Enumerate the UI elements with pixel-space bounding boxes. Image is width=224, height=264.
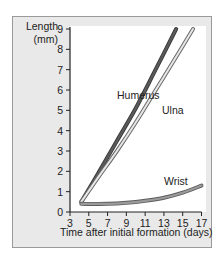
y-tick-label: 1 bbox=[57, 186, 63, 198]
x-tick-label: 7 bbox=[105, 217, 111, 229]
y-tick-label: 4 bbox=[57, 125, 63, 137]
wrist-label: Wrist bbox=[164, 175, 188, 187]
x-tick-label: 17 bbox=[196, 217, 208, 229]
y-tick-label: 7 bbox=[57, 64, 63, 76]
y-tick-label: 6 bbox=[57, 84, 63, 96]
y-tick-label: 9 bbox=[57, 23, 63, 35]
y-tick-label: 3 bbox=[57, 145, 63, 157]
humerus-label: Humerus bbox=[117, 89, 160, 101]
x-tick-label: 5 bbox=[86, 217, 92, 229]
y-tick-label: 8 bbox=[57, 43, 63, 55]
y-tick-label: 2 bbox=[57, 165, 63, 177]
x-tick-label: 13 bbox=[158, 217, 170, 229]
wrist-line bbox=[81, 186, 201, 204]
x-tick-label: 3 bbox=[67, 217, 73, 229]
x-tick-label: 9 bbox=[123, 217, 129, 229]
y-tick-label: 0 bbox=[57, 206, 63, 218]
ulna-label: Ulna bbox=[162, 104, 184, 116]
line-chart: 0123456789357911131517 Humerus Ulna Wris… bbox=[0, 0, 224, 264]
y-tick-label: 5 bbox=[57, 104, 63, 116]
x-tick-label: 15 bbox=[177, 217, 189, 229]
x-tick-label: 11 bbox=[140, 217, 151, 229]
